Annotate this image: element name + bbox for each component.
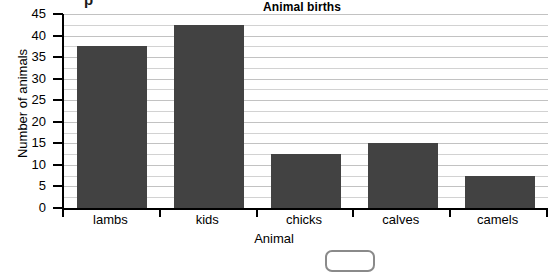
bar-lambs bbox=[77, 46, 147, 208]
bar-series bbox=[64, 14, 548, 208]
answer-input[interactable] bbox=[325, 250, 375, 272]
y-tick-label: 0 bbox=[12, 201, 46, 214]
bar-camels bbox=[465, 176, 535, 208]
x-category-label: calves bbox=[352, 212, 449, 227]
cutoff-top-text: p bbox=[84, 0, 93, 8]
bar-kids bbox=[174, 25, 244, 208]
y-tick-mark bbox=[53, 185, 63, 187]
plot-area bbox=[62, 14, 548, 210]
x-category-label: lambs bbox=[62, 212, 159, 227]
y-tick-label: 15 bbox=[12, 136, 46, 149]
y-tick-label: 40 bbox=[12, 29, 46, 42]
x-category-label: camels bbox=[449, 212, 546, 227]
y-tick-mark bbox=[53, 56, 63, 58]
y-tick-label: 10 bbox=[12, 158, 46, 171]
y-tick-mark bbox=[53, 142, 63, 144]
bar-chicks bbox=[271, 154, 341, 208]
y-tick-mark bbox=[53, 207, 63, 209]
y-tick-mark bbox=[53, 99, 63, 101]
bar-calves bbox=[368, 143, 438, 208]
y-tick-label: 20 bbox=[12, 115, 46, 128]
y-tick-mark bbox=[53, 164, 63, 166]
y-tick-label: 45 bbox=[12, 7, 46, 20]
y-tick-label: 25 bbox=[12, 93, 46, 106]
x-category-label: kids bbox=[159, 212, 256, 227]
y-tick-mark bbox=[53, 78, 63, 80]
y-tick-mark bbox=[53, 35, 63, 37]
y-tick-label: 35 bbox=[12, 50, 46, 63]
y-tick-mark bbox=[53, 121, 63, 123]
chart-title: Animal births bbox=[192, 0, 412, 14]
y-tick-mark bbox=[53, 13, 63, 15]
y-tick-label: 5 bbox=[12, 179, 46, 192]
x-category-label: chicks bbox=[256, 212, 353, 227]
y-tick-label: 30 bbox=[12, 72, 46, 85]
x-axis-title: Animal bbox=[0, 231, 548, 246]
